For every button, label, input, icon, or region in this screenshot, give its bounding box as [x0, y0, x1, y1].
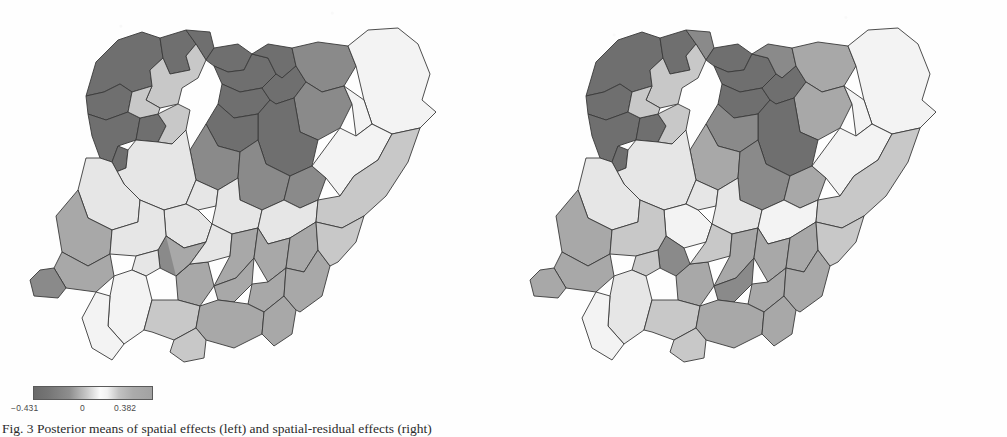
map-right: [500, 0, 1003, 385]
state-polygons-right: [530, 28, 936, 362]
figure-two-nigeria-choropleth-maps: −0.431 0 0.382: [0, 0, 1007, 437]
state-polygons-left: [30, 28, 436, 362]
map-left: [0, 0, 503, 385]
nigeria-map-svg-right: [500, 0, 1003, 385]
colorbar-left-ticks: −0.431 0 0.382: [11, 403, 181, 417]
colorbar-left-min-label: −0.431: [11, 403, 38, 413]
colorbar-left: −0.431 0 0.382: [33, 386, 233, 422]
colorbar-left-gradient: [34, 387, 152, 399]
figure-caption: Fig. 3 Posterior means of spatial effect…: [2, 421, 1002, 437]
panel-left-map: −0.431 0 0.382: [0, 0, 503, 420]
colorbar-left-gradient-box: [33, 386, 153, 400]
nigeria-map-svg-left: [0, 0, 503, 385]
colorbar-left-max-label: 0.382: [114, 403, 136, 413]
panel-right-map: −0.47 0 0.386: [500, 0, 1003, 420]
colorbar-left-mid-label: 0: [80, 403, 85, 413]
